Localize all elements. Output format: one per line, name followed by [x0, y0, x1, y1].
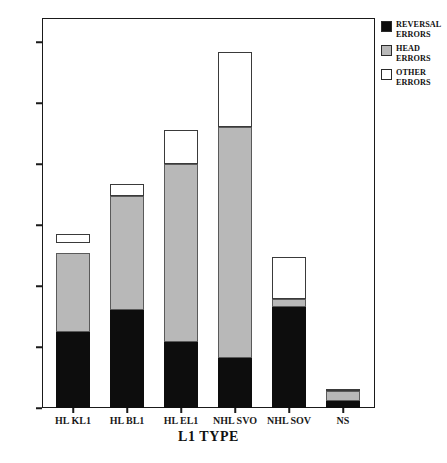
bar-group-ns[interactable]	[326, 18, 360, 408]
x-axis-title: L1 TYPE	[42, 429, 375, 445]
bar-segment-reversal-errors[interactable]	[218, 358, 252, 408]
bar-segment-head-errors[interactable]	[110, 196, 144, 311]
chart-legend: REVERSAL ERRORS HEAD ERRORS OTHER ERRORS	[381, 20, 447, 92]
bars-layer	[42, 18, 375, 408]
bar-segment-head-errors[interactable]	[272, 299, 306, 306]
bar-group-hl-bl1[interactable]	[110, 18, 144, 408]
bar-segment-head-errors[interactable]	[326, 391, 360, 401]
bar-segment-reversal-errors[interactable]	[56, 332, 90, 408]
bar-segment-head-errors[interactable]	[218, 127, 252, 358]
other-swatch-icon	[381, 69, 392, 80]
x-tick-mark-nhl-svo	[234, 408, 236, 413]
legend-item-reversal-errors[interactable]: REVERSAL ERRORS	[381, 20, 447, 39]
legend-item-other-errors[interactable]: OTHER ERRORS	[381, 68, 447, 87]
bar-segment-head-errors[interactable]	[56, 253, 90, 332]
bar-segment-reversal-errors[interactable]	[272, 307, 306, 408]
bar-segment-other-errors[interactable]	[164, 130, 198, 164]
x-tick-label-ns: NS	[303, 415, 383, 426]
head-swatch-icon	[381, 45, 392, 56]
legend-label-reversal-errors: REVERSAL ERRORS	[396, 20, 441, 39]
bar-segment-reversal-errors[interactable]	[326, 401, 360, 408]
legend-item-head-errors[interactable]: HEAD ERRORS	[381, 44, 447, 63]
bar-segment-reversal-errors[interactable]	[164, 342, 198, 408]
bar-group-nhl-sov[interactable]	[272, 18, 306, 408]
y-axis: 0 5 10 15 20 25 30	[0, 0, 42, 463]
legend-label-head-errors: HEAD ERRORS	[396, 44, 447, 63]
x-tick-mark-hl-el1	[180, 408, 182, 413]
x-tick-mark-hl-kl1	[72, 408, 74, 413]
x-tick-mark-ns	[342, 408, 344, 413]
legend-label-other-errors: OTHER ERRORS	[396, 68, 447, 87]
bar-segment-head-errors[interactable]	[164, 164, 198, 342]
bar-group-hl-el1[interactable]	[164, 18, 198, 408]
reversal-swatch-icon	[381, 21, 392, 32]
x-tick-mark-nhl-sov	[288, 408, 290, 413]
stacked-bar-chart-figure: 0 5 10 15 20 25 30	[0, 0, 447, 463]
bar-group-hl-kl1[interactable]	[56, 18, 90, 408]
x-tick-mark-hl-bl1	[126, 408, 128, 413]
bar-group-nhl-svo[interactable]	[218, 18, 252, 408]
bar-segment-other-errors[interactable]	[56, 234, 90, 244]
bar-segment-other-errors[interactable]	[272, 257, 306, 300]
bar-segment-other-errors[interactable]	[110, 184, 144, 196]
bar-segment-reversal-errors[interactable]	[110, 310, 144, 408]
bar-segment-other-errors[interactable]	[218, 52, 252, 128]
